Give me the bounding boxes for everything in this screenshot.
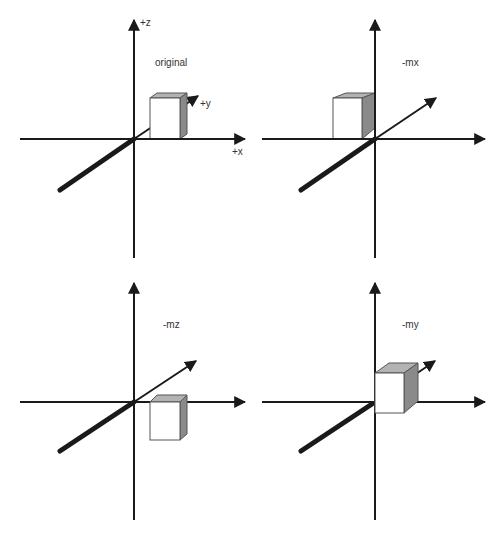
y-axis-negative — [301, 404, 372, 451]
cube — [150, 93, 187, 139]
cube — [375, 363, 418, 413]
cube — [333, 93, 375, 139]
y-axis-positive — [375, 98, 436, 139]
panel-mx: -mx — [262, 20, 485, 258]
panel-title: original — [155, 57, 187, 68]
y-axis-negative — [60, 139, 134, 190]
y-axis-negative — [301, 139, 375, 190]
panel-title: -mz — [163, 319, 180, 330]
cube — [150, 395, 187, 440]
y-axis-label: +y — [200, 98, 211, 109]
y-axis-negative — [60, 402, 134, 451]
panel-my: -my — [262, 283, 485, 520]
panel-title: -my — [402, 319, 419, 330]
panel-mz: -mz — [20, 283, 245, 520]
panel-original: +z +y +x original — [20, 17, 245, 258]
x-axis-label: +x — [232, 146, 243, 157]
panel-title: -mx — [402, 57, 419, 68]
mirror-diagram: +z +y +x original -mx -mz — [0, 0, 502, 538]
z-axis-label: +z — [140, 17, 151, 28]
